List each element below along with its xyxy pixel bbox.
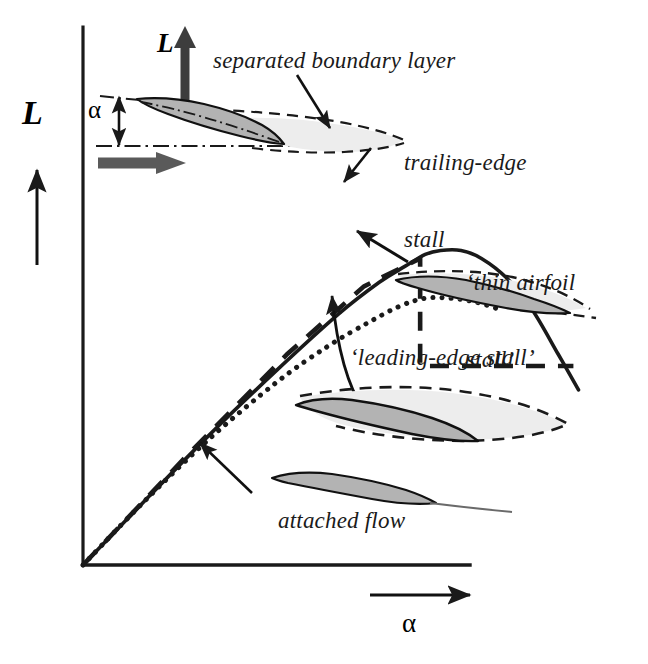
- label-trailing-edge-stall-line1: trailing-edge: [404, 150, 527, 176]
- label-leading-edge-stall: ‘leading-edge stall’: [350, 345, 535, 371]
- pointer-thin-airfoil-stall: [357, 231, 408, 262]
- inset-freestream-arrow: [98, 152, 186, 174]
- inset-alpha-label: α: [88, 96, 101, 124]
- attached-flow-streamline: [430, 503, 512, 512]
- pointer-attached-flow: [200, 443, 252, 493]
- x-axis-label: α: [402, 608, 416, 639]
- label-thin-airfoil-stall-line1: ‘thin airfoil: [466, 270, 575, 296]
- label-attached-flow: attached flow: [278, 508, 405, 534]
- airfoil-attached-flow: [272, 473, 512, 512]
- pointer-trailing-edge-stall: [344, 148, 371, 182]
- label-thin-airfoil-stall: ‘thin airfoil stall’: [466, 218, 575, 424]
- inset-lift-label: L: [157, 28, 174, 59]
- attached-airfoil-body: [272, 473, 436, 504]
- label-separated-boundary-layer: separated boundary layer: [213, 48, 455, 74]
- airfoil-stall-figure: separated boundary layer trailing-edge s…: [0, 0, 648, 664]
- y-axis-label: L: [22, 94, 43, 132]
